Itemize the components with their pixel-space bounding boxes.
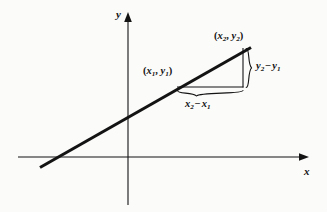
delta-y-second-subscript: 1 <box>277 65 281 73</box>
point1-y-subscript: 1 <box>165 70 169 78</box>
y-axis-arrowhead-icon <box>124 12 132 22</box>
point2-x-var: x <box>218 30 223 41</box>
point1-label: (x1, y1) <box>143 66 172 77</box>
delta-y-label: y2−y1 <box>256 61 280 72</box>
delta-x-first-subscript: 2 <box>190 103 194 111</box>
delta-y-first-subscript: 2 <box>261 65 265 73</box>
slope-diagram-figure: y x (x1, y1) (x2, y2) y2−y1 x2−x1 <box>0 0 327 212</box>
delta-x-label: x2−x1 <box>185 99 211 110</box>
delta-y-first-var: y <box>256 60 261 71</box>
delta-x-operator: − <box>194 98 202 109</box>
point2-label: (x2, y2) <box>214 31 243 42</box>
diagram-canvas <box>0 0 327 212</box>
y-axis-label: y <box>116 9 121 20</box>
point2-x-subscript: 2 <box>223 35 227 43</box>
delta-x-second-subscript: 1 <box>207 103 211 111</box>
point1-close-paren: ) <box>169 65 173 76</box>
point2-y-subscript: 2 <box>236 35 240 43</box>
point2-close-paren: ) <box>240 30 244 41</box>
y-axis <box>124 12 132 205</box>
rise-run-triangle <box>177 48 244 88</box>
x-axis-arrowhead-icon <box>299 153 309 161</box>
x-axis-label: x <box>304 166 310 177</box>
point1-x-subscript: 1 <box>152 70 156 78</box>
horizontal-brace <box>178 91 244 96</box>
point1-x-var: x <box>147 65 152 76</box>
vertical-brace <box>246 49 251 88</box>
